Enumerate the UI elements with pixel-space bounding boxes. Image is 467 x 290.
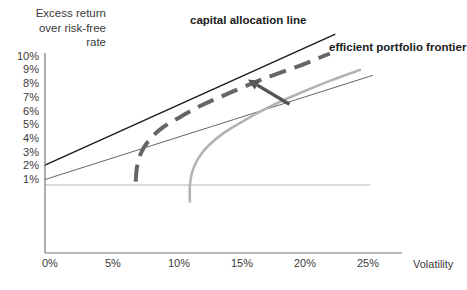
y-tick-label: 8% (1, 78, 39, 89)
y-tick-label: 1% (1, 174, 39, 185)
y-tick-label: 7% (1, 92, 39, 103)
y-tick-label: 10% (1, 51, 39, 62)
y-tick-label: 2% (1, 160, 39, 171)
inefficient-portfolio-frontier-curve (190, 70, 360, 202)
efficient-portfolio-frontier-label: efficient portfolio frontier (329, 41, 466, 53)
y-tick-label: 6% (1, 106, 39, 117)
y-tick-label: 5% (1, 119, 39, 130)
arrow-shaft (257, 85, 289, 104)
annotation-arrow (248, 80, 290, 105)
y-tick-label: 4% (1, 133, 39, 144)
x-tick-label: 5% (105, 258, 151, 269)
y-tick-label: 9% (1, 64, 39, 75)
chart-figure: Excess return over risk-free rate 1%2%3%… (0, 0, 467, 290)
capital-allocation-line (45, 34, 335, 165)
x-tick-label: 0% (42, 258, 88, 269)
y-tick-label: 3% (1, 147, 39, 158)
capital-allocation-line-label: capital allocation line (190, 14, 306, 26)
x-axis-title: Volatility (413, 258, 453, 270)
x-tick-label: 10% (168, 258, 214, 269)
x-tick-label: 25% (357, 258, 403, 269)
x-tick-label: 20% (294, 258, 340, 269)
x-tick-label: 15% (231, 258, 277, 269)
efficient-portfolio-frontier-curve (136, 54, 330, 182)
